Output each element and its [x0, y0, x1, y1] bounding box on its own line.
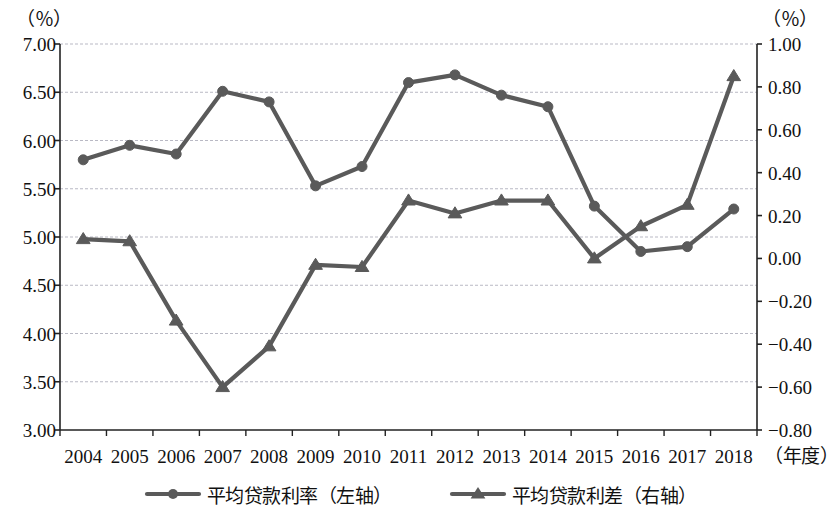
data-point — [450, 70, 460, 80]
triangle-marker-icon — [446, 484, 510, 504]
chart-legend: 平均贷款利率（左轴）平均贷款利差（右轴） — [0, 481, 837, 507]
data-point — [636, 246, 646, 256]
gridlines — [60, 44, 757, 382]
data-point — [543, 102, 553, 112]
data-point — [264, 97, 274, 107]
data-point — [404, 78, 414, 88]
plot-area — [0, 0, 837, 507]
series-line — [83, 76, 734, 387]
legend-label: 平均贷款利差（右轴） — [512, 481, 697, 507]
data-point — [357, 162, 367, 172]
data-point — [78, 155, 88, 165]
data-point — [496, 90, 506, 100]
data-point — [680, 198, 694, 209]
data-point — [589, 201, 599, 211]
data-point — [311, 181, 321, 191]
data-point — [729, 204, 739, 214]
series-2 — [76, 70, 740, 392]
data-point — [125, 140, 135, 150]
axis-tick-marks — [55, 44, 762, 436]
circle-marker-icon — [141, 484, 205, 504]
legend-item-1[interactable]: 平均贷款利率（左轴） — [141, 481, 392, 507]
legend-label: 平均贷款利率（左轴） — [207, 481, 392, 507]
data-point — [171, 149, 181, 159]
chart-container: （％） （％） 7.006.506.005.505.004.504.003.50… — [0, 0, 837, 507]
data-series-layer — [76, 70, 740, 392]
data-point — [218, 86, 228, 96]
data-point — [727, 70, 741, 81]
data-point — [402, 194, 416, 205]
data-point — [682, 242, 692, 252]
series-line — [83, 75, 734, 252]
legend-item-2[interactable]: 平均贷款利差（右轴） — [446, 481, 697, 507]
